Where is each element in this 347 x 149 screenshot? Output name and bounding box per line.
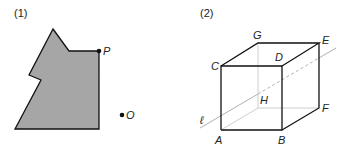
- vertex-h-label: H: [260, 94, 268, 106]
- point-o-dot: [120, 113, 125, 118]
- point-o-label: O: [126, 109, 135, 121]
- vertex-c-label: C: [211, 60, 219, 72]
- vertex-a-label: A: [214, 134, 222, 146]
- vertex-g-label: G: [253, 29, 262, 41]
- point-p-label: P: [103, 45, 111, 57]
- line-l-label: ℓ: [199, 114, 204, 126]
- vertex-b-label: B: [278, 134, 285, 146]
- point-p-dot: [97, 49, 102, 54]
- figure-1-label: (1): [14, 7, 27, 19]
- figure-2-label: (2): [200, 7, 213, 19]
- shaded-polygon: [15, 29, 99, 129]
- vertex-e-label: E: [322, 34, 330, 46]
- vertex-f-label: F: [322, 102, 330, 114]
- vertex-d-label: D: [275, 51, 283, 63]
- figure-canvas: (1) P O (2) C D G E H F: [0, 0, 347, 149]
- figure-2: (2) C D G E H F A B ℓ: [199, 7, 336, 146]
- visible-edges: [221, 43, 319, 130]
- figure-1: (1) P O: [14, 7, 135, 129]
